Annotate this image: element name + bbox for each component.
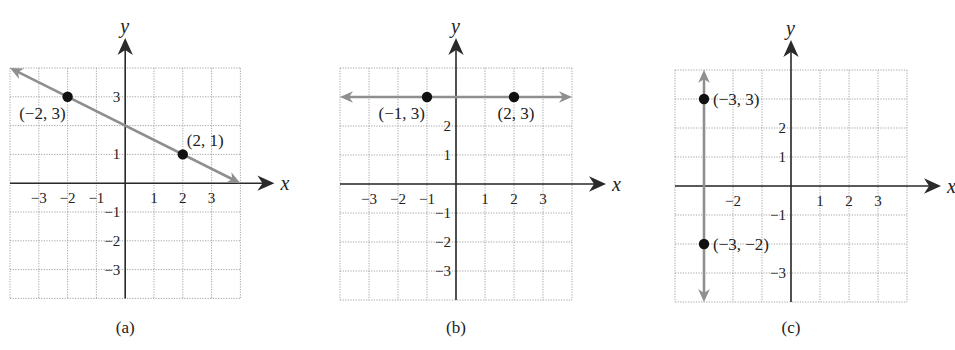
y-tick-label: 3 bbox=[113, 89, 121, 105]
data-point bbox=[62, 92, 72, 102]
point-label: (−1, 3) bbox=[379, 104, 425, 123]
data-point bbox=[699, 94, 709, 104]
y-tick-label: −1 bbox=[104, 204, 120, 220]
data-point bbox=[699, 239, 709, 249]
panel-caption: (a) bbox=[116, 318, 135, 337]
panel-caption: (b) bbox=[446, 318, 466, 337]
x-tick-label: 3 bbox=[874, 193, 882, 209]
panel-caption: (c) bbox=[782, 318, 801, 337]
graph-b-svg: xy−3−2−112321−1−2−3(−1, 3)(2, 3)(b) bbox=[318, 0, 636, 350]
y-tick-label: 2 bbox=[779, 120, 787, 136]
y-tick-label: −3 bbox=[770, 265, 786, 281]
x-axis-label: x bbox=[611, 173, 621, 195]
x-tick-label: −2 bbox=[725, 193, 741, 209]
y-axis-label: y bbox=[449, 15, 460, 38]
x-tick-label: −3 bbox=[31, 190, 47, 206]
x-tick-label: −2 bbox=[390, 191, 406, 207]
y-tick-label: −3 bbox=[435, 263, 451, 279]
point-label: (−3, 3) bbox=[713, 90, 759, 109]
data-point bbox=[178, 149, 188, 159]
point-label: (−3, −2) bbox=[713, 235, 769, 254]
graph-c-svg: xy−212321−1−3(−3, 3)(−3, −2)(c) bbox=[636, 0, 955, 350]
graph-panel-a: xy−3−2−112331−1−2−3(−2, 3)(2, 1)(a) bbox=[0, 0, 318, 350]
data-point bbox=[422, 92, 432, 102]
x-tick-label: 2 bbox=[510, 191, 518, 207]
x-tick-label: −2 bbox=[60, 190, 76, 206]
y-tick-label: −2 bbox=[435, 234, 451, 250]
x-tick-label: 1 bbox=[816, 193, 824, 209]
point-label: (2, 3) bbox=[498, 104, 535, 123]
data-point bbox=[509, 92, 519, 102]
x-tick-label: 1 bbox=[481, 191, 489, 207]
x-tick-label: 3 bbox=[208, 190, 216, 206]
x-tick-label: −1 bbox=[88, 190, 104, 206]
y-tick-label: −1 bbox=[435, 205, 451, 221]
y-axis-label: y bbox=[784, 17, 795, 40]
point-label: (2, 1) bbox=[187, 131, 224, 150]
y-axis-label: y bbox=[118, 15, 129, 38]
y-tick-label: 2 bbox=[444, 118, 452, 134]
point-label: (−2, 3) bbox=[19, 104, 65, 123]
x-tick-label: 3 bbox=[539, 191, 547, 207]
y-tick-label: −1 bbox=[770, 207, 786, 223]
y-tick-label: −2 bbox=[104, 233, 120, 249]
graph-panel-c: xy−212321−1−3(−3, 3)(−3, −2)(c) bbox=[636, 0, 955, 350]
x-tick-label: 2 bbox=[179, 190, 187, 206]
x-axis-label: x bbox=[279, 172, 289, 194]
y-tick-label: 1 bbox=[444, 147, 452, 163]
x-tick-label: −1 bbox=[419, 191, 435, 207]
graph-panel-b: xy−3−2−112321−1−2−3(−1, 3)(2, 3)(b) bbox=[318, 0, 636, 350]
x-tick-label: 1 bbox=[150, 190, 158, 206]
x-tick-label: 2 bbox=[845, 193, 853, 209]
y-tick-label: 1 bbox=[779, 149, 787, 165]
graph-a-svg: xy−3−2−112331−1−2−3(−2, 3)(2, 1)(a) bbox=[0, 0, 318, 350]
y-tick-label: 1 bbox=[113, 146, 121, 162]
y-tick-label: −3 bbox=[104, 262, 120, 278]
x-tick-label: −3 bbox=[361, 191, 377, 207]
x-axis-label: x bbox=[946, 175, 955, 197]
